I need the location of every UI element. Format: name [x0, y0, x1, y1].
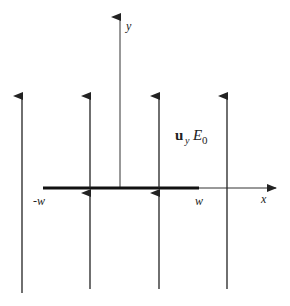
strip-left-label: -w [33, 194, 45, 208]
field-unit-vector-subscript: y [184, 135, 190, 146]
field-magnitude: E [192, 127, 202, 143]
field-magnitude-subscript: 0 [202, 134, 208, 146]
y-axis-label: y [125, 19, 132, 33]
field-unit-vector: u [175, 127, 183, 143]
x-axis-label: x [260, 192, 267, 206]
strip-right-label: w [195, 194, 203, 208]
field-label: u y E 0 [175, 127, 208, 146]
field-diagram: y x -w w u y E 0 [0, 0, 290, 306]
